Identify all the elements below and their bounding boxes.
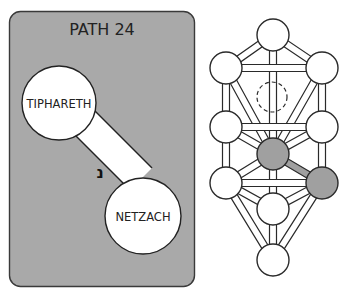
chesed-node <box>306 111 338 143</box>
malkuth-node <box>257 244 289 276</box>
yesod-node <box>257 193 289 225</box>
chokmah-node <box>306 52 338 84</box>
tiphareth-label: TIPHARETH <box>26 97 92 111</box>
hod-node <box>210 167 242 199</box>
netzach-node <box>306 167 338 199</box>
kether-node <box>257 19 289 51</box>
path-card: PATH 24 TIPHARETH NETZACH נ <box>10 12 195 287</box>
netzach-label: NETZACH <box>115 210 170 224</box>
binah-node <box>210 52 242 84</box>
hebrew-letter-nun: נ <box>96 163 103 182</box>
tree-of-life <box>210 19 338 276</box>
tiphareth-node <box>257 138 289 170</box>
card-title: PATH 24 <box>69 20 135 39</box>
geburah-node <box>210 111 242 143</box>
path-24-diagram: PATH 24 TIPHARETH NETZACH נ <box>0 0 344 296</box>
path-kether-tiphareth <box>270 35 277 154</box>
